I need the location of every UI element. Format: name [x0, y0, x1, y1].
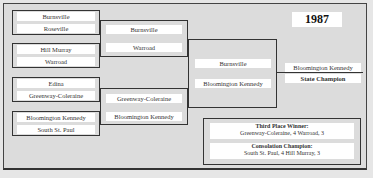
consolation-result: South St. Paul, 4 Hill Murray, 3	[210, 150, 354, 157]
champion-line	[277, 72, 363, 73]
sf2-bottom-team: Bloomington Kennedy	[106, 112, 182, 121]
consolation-block: Consolation Champion: South St. Paul, 4 …	[210, 143, 354, 159]
qf3-bottom-team: Greenway-Coleraine	[17, 91, 95, 100]
final-top-team: Burnsville	[195, 59, 271, 68]
third-place-title: Third Place Winner:	[210, 123, 354, 130]
champion-label: State Champion	[285, 74, 361, 83]
champion-team: Bloomington Kennedy	[285, 63, 361, 72]
qf2-bottom-team: Warroad	[17, 57, 95, 66]
year-title: 1987	[292, 12, 342, 27]
results-summary-box: Third Place Winner: Greenway-Coleraine, …	[203, 118, 361, 165]
qf1-bottom-team: Roseville	[17, 24, 95, 33]
third-place-result: Greenway-Coleraine, 4 Warroad, 3	[210, 130, 354, 137]
qf4-bottom-team: South St. Paul	[17, 125, 95, 134]
qf3-top-team: Edina	[17, 79, 95, 88]
qf4-top-team: Bloomington Kennedy	[17, 113, 95, 122]
final-box	[188, 39, 277, 108]
sf1-top-team: Burnsville	[106, 25, 182, 34]
third-place-block: Third Place Winner: Greenway-Coleraine, …	[210, 123, 354, 139]
qf1-top-team: Burnsville	[17, 12, 95, 21]
sf1-bottom-team: Warroad	[106, 43, 182, 52]
sf2-top-team: Greenway-Coleraine	[106, 94, 182, 103]
final-bottom-team: Bloomington Kennedy	[195, 79, 271, 88]
consolation-title: Consolation Champion:	[210, 143, 354, 150]
qf2-top-team: Hill Murray	[17, 45, 95, 54]
